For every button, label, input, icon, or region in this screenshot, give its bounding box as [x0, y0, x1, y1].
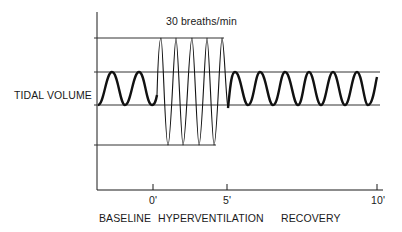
- y-axis-label: TIDAL VOLUME: [14, 89, 92, 101]
- phase-label-recovery: RECOVERY: [281, 212, 341, 224]
- x-tick-label-5: 5': [223, 194, 231, 206]
- hyperventilation-wave: [157, 38, 228, 145]
- breathing-rate-annotation: 30 breaths/min: [166, 15, 237, 27]
- tidal-volume-diagram: [0, 0, 402, 232]
- baseline-wave: [98, 72, 157, 105]
- phase-label-hyperventilation: HYPERVENTILATION: [158, 212, 264, 224]
- x-tick-label-10: 10': [371, 194, 385, 206]
- x-tick-label-0: 0': [149, 194, 157, 206]
- recovery-wave: [228, 72, 377, 108]
- phase-label-baseline: BASELINE: [99, 212, 151, 224]
